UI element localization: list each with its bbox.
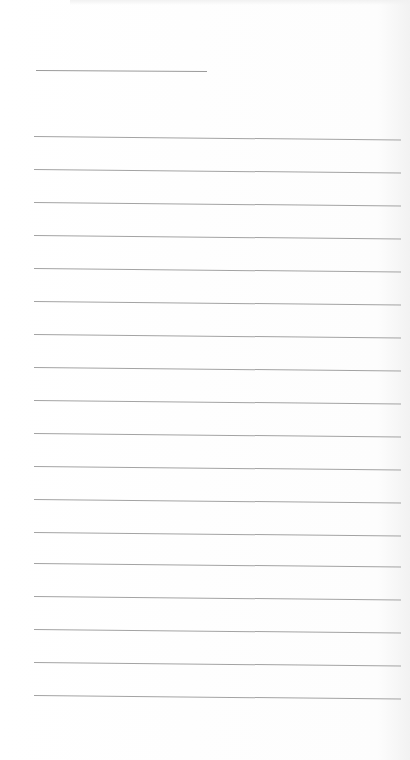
ruled-line [34, 466, 401, 471]
scan-edge-shadow [70, 0, 410, 5]
notepaper-page [0, 0, 410, 760]
ruled-line [34, 169, 401, 174]
ruled-line [34, 629, 401, 634]
ruled-line [34, 136, 401, 141]
ruled-line [34, 334, 401, 339]
ruled-line [34, 596, 401, 601]
ruled-line [34, 301, 401, 306]
ruled-line [34, 563, 401, 568]
ruled-line [34, 400, 401, 405]
ruled-line [34, 662, 401, 667]
ruled-line [34, 433, 401, 438]
ruled-line [34, 268, 401, 273]
ruled-line [34, 367, 401, 372]
ruled-line [34, 695, 401, 700]
ruled-line [34, 532, 401, 537]
ruled-line [34, 235, 401, 240]
title-line [36, 70, 207, 72]
ruled-line [34, 202, 401, 207]
ruled-line [34, 499, 401, 504]
